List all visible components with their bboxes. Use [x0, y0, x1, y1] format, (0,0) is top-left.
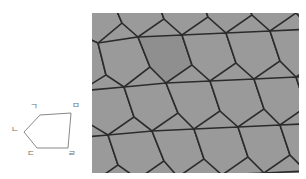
tiling-svg [92, 13, 299, 173]
pentagon-diagram: ㄱ ㅁ ㄹ ㄷ ㄴ [0, 88, 92, 170]
pentagon-vertex-label-m: ㅁ [72, 100, 80, 110]
pentagon-outline [24, 113, 71, 148]
pentagon-vertex-label-r: ㄹ [68, 148, 76, 158]
tiling-diagram [92, 13, 299, 173]
pentagon-svg: ㄱ ㅁ ㄹ ㄷ ㄴ [0, 88, 92, 170]
pentagon-vertex-label-d: ㄷ [27, 148, 35, 158]
pentagon-vertex-label-n: ㄴ [11, 124, 19, 134]
pentagon-vertex-label-g: ㄱ [30, 101, 38, 111]
figure-root: ㄱ ㅁ ㄹ ㄷ ㄴ [0, 0, 306, 179]
